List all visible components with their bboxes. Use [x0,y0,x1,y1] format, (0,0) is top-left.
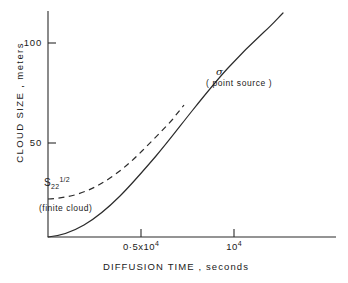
x-axis-label: DIFFUSION TIME , seconds [66,261,286,272]
chart-figure: CLOUD SIZE , meters DIFFUSION TIME , sec… [0,0,348,283]
x-tick-label-10000-exponent: 4 [238,240,242,247]
annotation-s22-symbol: S221/2 [44,176,70,190]
x-tick-label-5000: 0·5x104 [106,240,176,252]
annotation-s22-subscript: 22 [51,183,59,190]
y-tick-label-100: 100 [14,37,42,48]
annotation-s22-base: S [44,177,51,188]
annotation-sigma-symbol: σ [216,66,223,77]
annotation-s22-superscript: 1/2 [59,176,70,183]
x-tick-label-10000-mantissa: 10 [226,241,238,252]
x-tick-label-5000-mantissa: 0·5x10 [123,241,155,252]
annotation-sigma-caption: ( point source ) [206,78,272,88]
x-tick-label-5000-exponent: 4 [155,240,159,247]
y-tick-label-50: 50 [14,137,42,148]
annotation-s22-caption: (finite cloud) [39,203,92,213]
x-tick-label-10000: 104 [206,240,262,252]
